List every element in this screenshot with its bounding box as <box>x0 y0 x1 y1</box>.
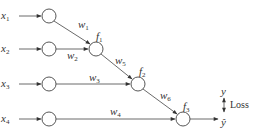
input-node-3 <box>42 77 56 91</box>
label-f3: f3 <box>183 100 190 114</box>
label-y: y <box>220 85 226 97</box>
label-w5: w5 <box>115 54 126 68</box>
input-node-4 <box>42 112 56 126</box>
label-loss: Loss <box>230 99 249 110</box>
label-w2: w2 <box>67 49 78 63</box>
label-x4: x4 <box>0 112 10 126</box>
input-node-2 <box>42 42 56 56</box>
label-f2: f2 <box>139 65 146 79</box>
function-node-f3 <box>176 112 190 126</box>
label-x2: x2 <box>0 42 10 56</box>
label-x1: x1 <box>0 9 10 23</box>
function-node-f1 <box>89 42 103 56</box>
label-x3: x3 <box>0 77 10 91</box>
label-w6: w6 <box>160 89 171 103</box>
input-node-1 <box>42 9 56 23</box>
input-nodes <box>42 9 56 126</box>
label-w4: w4 <box>110 105 121 119</box>
neural-network-diagram: x1 x2 x3 x4 f1 f2 f3 w1 w2 w3 w4 w5 w6 y… <box>0 0 259 139</box>
label-w3: w3 <box>89 71 100 85</box>
label-w1: w1 <box>78 18 89 32</box>
label-y-hat: ŷ <box>220 116 226 128</box>
label-f1: f1 <box>96 30 103 44</box>
function-node-f2 <box>131 77 145 91</box>
